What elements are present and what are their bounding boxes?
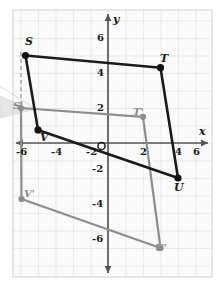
y-tick-neg6: -6 — [92, 234, 103, 244]
x-tick-2: 2 — [140, 147, 147, 157]
vertex-S-dot — [22, 52, 29, 59]
y-tick-6: 6 — [97, 33, 104, 43]
y-tick-2: 2 — [97, 103, 104, 113]
vertex-label-S-prime: S' — [13, 101, 23, 111]
vertex-label-S: S — [25, 36, 33, 47]
y-tick-neg4: -4 — [92, 199, 103, 209]
x-tick-neg6: -6 — [16, 147, 27, 157]
vertex-T-dot — [157, 64, 164, 71]
vertex-label-U: U — [174, 182, 184, 193]
y-tick-neg2: -2 — [92, 164, 103, 174]
graph-canvas — [0, 0, 222, 290]
vertex-label-V: V — [40, 132, 49, 143]
x-tick-neg4: -4 — [51, 147, 62, 157]
y-axis-label: y — [113, 14, 119, 25]
x-tick-neg2: -2 — [86, 147, 97, 157]
x-tick-4: 4 — [175, 147, 182, 157]
vertex-label-V-prime: V' — [24, 189, 35, 199]
vertex-label-T: T — [160, 53, 168, 64]
vertex-label-T-prime: T' — [133, 107, 144, 117]
vertex-label-U-prime: U' — [155, 243, 167, 253]
x-tick-6: 6 — [193, 147, 200, 157]
x-axis-label: x — [199, 126, 206, 137]
coordinate-plane-figure: -6 -4 -2 2 4 6 6 4 2 -2 -4 -6 x y S T U … — [0, 0, 222, 290]
y-tick-4: 4 — [97, 68, 104, 78]
